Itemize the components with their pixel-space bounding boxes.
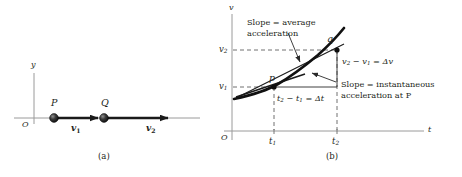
panel-a-y-axis-label: y	[31, 61, 36, 69]
panel-a-caption: (a)	[98, 152, 110, 161]
vector-v2-sub: 2	[151, 127, 155, 134]
point-p-marker	[271, 84, 276, 89]
ytick-label-v1: v1	[219, 82, 227, 92]
annotation-average-acceleration: Slope = average acceleration	[247, 17, 316, 39]
vector-label-v1: v1	[71, 124, 81, 134]
annotation-average-line1: Slope = average	[247, 17, 316, 28]
delta-t-t1-sub: 1	[299, 97, 303, 103]
ball-Q	[100, 114, 109, 123]
delta-v-v2-sub: 2	[347, 60, 351, 66]
point-label-q: q	[327, 34, 333, 44]
annotation-instantaneous-line1: Slope = instantaneous	[341, 79, 435, 90]
delta-t-equals: =	[305, 93, 312, 103]
point-label-p: p	[269, 73, 275, 83]
secant-line-pq	[236, 44, 344, 98]
ball-P	[50, 114, 59, 123]
delta-v-delta: Δv	[383, 56, 394, 66]
xtick-label-t2: t2	[332, 137, 339, 147]
xtick-t1-sub: 1	[272, 140, 276, 146]
annotation-average-line2: acceleration	[247, 28, 316, 39]
equation-delta-v: v2 − v1 = Δv	[342, 57, 393, 67]
xtick-label-t1: t1	[269, 137, 276, 147]
panel-b-v-axis-label: v	[229, 4, 234, 12]
delta-v-v1-sub: 1	[367, 60, 371, 66]
point-label-Q: Q	[101, 98, 109, 108]
delta-t-minus: −	[286, 93, 293, 103]
delta-v-minus: −	[353, 56, 360, 66]
ytick-label-v2: v2	[219, 45, 227, 55]
vector-v1-sub: 1	[76, 127, 80, 134]
ytick-v1-sub: 1	[224, 85, 228, 91]
vector-label-v2: v2	[146, 124, 156, 134]
delta-t-delta: Δt	[315, 93, 324, 103]
annotation-instantaneous-line2: acceleration at P	[341, 90, 435, 101]
annotation-instantaneous-acceleration: Slope = instantaneous acceleration at P	[341, 79, 435, 101]
leader-instantaneous-acceleration	[312, 73, 336, 82]
panel-b-origin-label: O	[221, 134, 228, 142]
point-q-marker	[334, 47, 339, 52]
panel-b-caption: (b)	[326, 152, 338, 161]
xtick-t2-sub: 2	[335, 140, 339, 146]
ytick-v2-sub: 2	[224, 48, 228, 54]
physics-figure: y O P Q v1 v2 (a) v t O v2 v1 t1 t2 p q …	[0, 0, 462, 177]
delta-v-equals: =	[373, 56, 380, 66]
panel-b-t-axis-label: t	[428, 126, 431, 134]
delta-t-t2-sub: 2	[280, 97, 284, 103]
panel-a-origin-label: O	[22, 121, 29, 129]
equation-delta-t: t2 − t1 = Δt	[277, 94, 324, 104]
point-label-P: P	[51, 98, 57, 108]
